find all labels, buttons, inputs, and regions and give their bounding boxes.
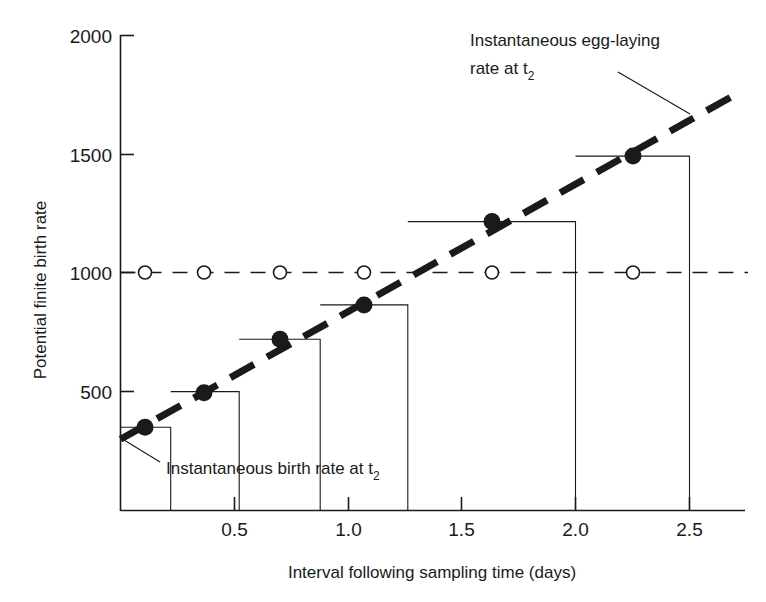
open-circle-marker bbox=[627, 266, 640, 279]
filled-circle-marker bbox=[625, 148, 642, 165]
annotation-birth-rate-subscript: 2 bbox=[373, 469, 380, 483]
x-axis-title: Interval following sampling time (days) bbox=[288, 563, 576, 582]
annotation-birth-rate-text: Instantaneous birth rate at t bbox=[166, 459, 373, 478]
chart-svg: 2000 1500 1000 500 0.5 1.0 1.5 2.0 2.5 bbox=[0, 0, 766, 602]
y-tick-label-500: 500 bbox=[80, 382, 112, 403]
filled-circle-marker bbox=[356, 296, 373, 313]
open-circle-marker bbox=[139, 266, 152, 279]
filled-circle-marker bbox=[196, 384, 213, 401]
chart-background bbox=[0, 0, 766, 602]
open-circle-marker bbox=[486, 266, 499, 279]
annotation-egg-laying-line1: Instantaneous egg-laying bbox=[470, 31, 660, 50]
filled-circle-marker bbox=[484, 213, 501, 230]
y-tick-label-1000: 1000 bbox=[70, 263, 112, 284]
annotation-egg-laying-line2-text: rate at t bbox=[470, 59, 528, 78]
filled-circle-marker bbox=[137, 419, 154, 436]
y-tick-label-1500: 1500 bbox=[70, 145, 112, 166]
open-circle-marker bbox=[198, 266, 211, 279]
x-tick-label-2-0: 2.0 bbox=[562, 519, 588, 540]
y-axis-title: Potential finite birth rate bbox=[31, 201, 50, 380]
open-circle-marker bbox=[358, 266, 371, 279]
x-tick-label-1-5: 1.5 bbox=[448, 519, 474, 540]
open-circle-marker bbox=[274, 266, 287, 279]
x-tick-label-0-5: 0.5 bbox=[221, 519, 247, 540]
chart-figure: 2000 1500 1000 500 0.5 1.0 1.5 2.0 2.5 bbox=[0, 0, 766, 602]
y-tick-label-2000: 2000 bbox=[70, 26, 112, 47]
filled-circle-marker bbox=[272, 331, 289, 348]
x-tick-label-1-0: 1.0 bbox=[335, 519, 361, 540]
annotation-egg-laying-subscript: 2 bbox=[528, 69, 535, 83]
x-tick-label-2-5: 2.5 bbox=[676, 519, 702, 540]
